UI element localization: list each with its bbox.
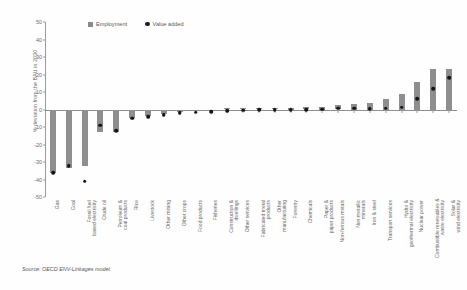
chart-column <box>61 22 77 197</box>
x-tick-mark <box>449 110 450 113</box>
x-axis-label: Fabricated metalproducts <box>261 200 272 258</box>
value-added-marker <box>115 129 119 133</box>
chart-column <box>203 22 219 197</box>
chart-column <box>77 22 93 197</box>
chart-column <box>93 22 109 197</box>
value-added-marker <box>194 111 198 115</box>
chart-column <box>299 22 315 197</box>
value-added-marker <box>225 109 229 113</box>
x-axis-label: Non-ferrous metals <box>340 200 345 258</box>
value-added-marker <box>431 87 435 91</box>
x-axis-label: Nuclear power <box>419 200 424 258</box>
value-added-marker <box>162 113 166 117</box>
x-axis-label: Fisheries <box>213 200 218 258</box>
x-axis-label: Hydro &geothermal electricity <box>404 200 415 258</box>
value-added-marker <box>305 108 309 112</box>
x-axis-label: Other services <box>245 200 250 258</box>
chart-column <box>140 22 156 197</box>
x-axis-label: Fossil fuelbased electricity <box>87 200 98 258</box>
chart-column <box>346 22 362 197</box>
value-added-marker <box>51 171 55 175</box>
chart-column <box>409 22 425 197</box>
value-added-marker <box>289 108 293 112</box>
value-added-marker <box>146 115 150 119</box>
chart-column <box>362 22 378 197</box>
value-added-marker <box>352 106 356 110</box>
x-axis-label: Iron & steel <box>372 200 377 258</box>
chart-column <box>219 22 235 197</box>
chart-column <box>108 22 124 197</box>
x-axis-label: Construction &dwellings <box>229 200 240 258</box>
chart-column <box>441 22 457 197</box>
x-tick-mark <box>401 110 402 113</box>
x-axis-label: Non-metallicminerals <box>356 200 367 258</box>
x-axis-labels: GasCoalFossil fuelbased electricityCrude… <box>45 200 457 260</box>
x-axis-label: Solar &wind electricity <box>451 200 462 258</box>
chart-column <box>124 22 140 197</box>
value-added-marker <box>99 123 103 127</box>
employment-bar <box>82 110 88 166</box>
value-added-marker <box>447 76 451 80</box>
chart-column <box>267 22 283 197</box>
x-axis-label: Petroleum &coal products <box>118 200 129 258</box>
value-added-marker <box>210 110 214 114</box>
value-added-marker <box>178 111 182 115</box>
x-tick-mark <box>52 110 53 113</box>
chart-column <box>394 22 410 197</box>
x-axis-label: Combustible renewables &waste electricit… <box>435 200 446 258</box>
employment-bar <box>414 82 420 110</box>
x-tick-mark <box>68 110 69 113</box>
x-tick-mark <box>116 110 117 113</box>
x-tick-mark <box>132 110 133 113</box>
chart-column <box>425 22 441 197</box>
chart-column <box>172 22 188 197</box>
value-added-marker <box>257 108 261 112</box>
value-added-marker <box>336 107 340 111</box>
x-axis-label: Transport services <box>388 200 393 258</box>
chart-column <box>188 22 204 197</box>
x-axis-label: Paper &paper products <box>324 200 335 258</box>
value-added-marker <box>273 108 277 112</box>
x-tick-mark <box>417 110 418 113</box>
x-tick-mark <box>353 110 354 113</box>
employment-bar <box>50 110 56 173</box>
x-axis-label: Food products <box>198 200 203 258</box>
x-tick-mark <box>433 110 434 113</box>
plot-area: 50403020100-10-20-30-40-50 <box>45 22 457 197</box>
value-added-marker <box>67 164 71 168</box>
x-axis-label: Chemicals <box>308 200 313 258</box>
x-axis-label: Othermanufacturing <box>277 200 288 258</box>
value-added-marker <box>384 106 388 110</box>
chart-column <box>45 22 61 197</box>
x-axis-label: Other crops <box>182 200 187 258</box>
value-added-marker <box>321 107 325 111</box>
employment-value-added-chart: % deviation from the BAU in 2030 Employm… <box>0 0 467 290</box>
chart-column <box>251 22 267 197</box>
x-axis-label: Gas <box>55 200 60 258</box>
chart-column <box>330 22 346 197</box>
chart-column <box>378 22 394 197</box>
value-added-marker <box>368 107 372 111</box>
x-tick-mark <box>84 110 85 113</box>
value-added-marker <box>416 97 420 101</box>
chart-column <box>283 22 299 197</box>
employment-bar <box>97 110 103 133</box>
value-added-marker <box>400 105 404 109</box>
x-axis-label: Coal <box>71 200 76 258</box>
source-note: Source: OECD ENV-Linkages model. <box>22 266 111 272</box>
x-axis-label: Crude oil <box>102 200 107 258</box>
x-axis-label: Other mining <box>166 200 171 258</box>
value-added-marker <box>130 116 134 120</box>
chart-column <box>235 22 251 197</box>
x-tick-mark <box>100 110 101 113</box>
chart-column <box>314 22 330 197</box>
x-axis-label: Rice <box>134 200 139 258</box>
value-added-marker <box>241 108 245 112</box>
bar-series-container <box>45 22 457 197</box>
x-axis-label: Livestock <box>150 200 155 258</box>
chart-column <box>156 22 172 197</box>
x-tick-mark <box>385 110 386 113</box>
x-axis-label: Forestry <box>293 200 298 258</box>
employment-bar <box>66 110 72 169</box>
x-tick-mark <box>147 110 148 113</box>
